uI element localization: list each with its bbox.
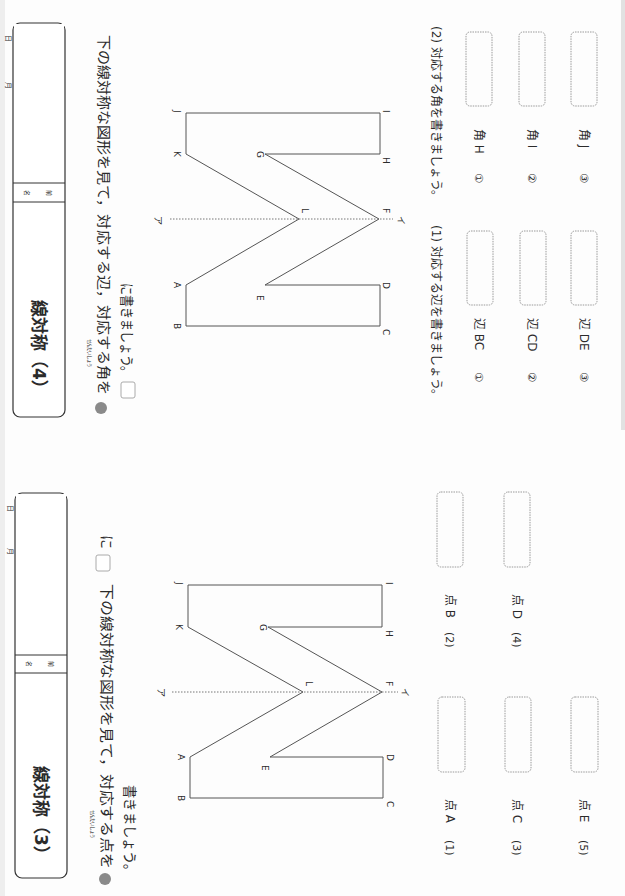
furigana: せんたいしょう xyxy=(86,339,92,367)
point-label-i: I xyxy=(384,582,394,585)
point-label-b: B xyxy=(176,795,186,801)
worksheet-title: 線対称（4） xyxy=(29,300,49,397)
worksheet-canvas: 月 日 名 前 線対称（4） せんたいしょう 下の線対称な図形を見て，対応する辺… xyxy=(0,0,625,896)
point-label-l: L xyxy=(304,681,314,686)
point-label-e: E xyxy=(255,295,265,301)
worksheet-3: 月 日 名 前 線対称（3） せんたいしょう 下の線対称な図形を見て，対応する点… xyxy=(6,492,598,885)
furigana: せんたいしょう xyxy=(89,810,95,838)
item-label: 辺 DE xyxy=(577,318,591,351)
date-month-label: 月 xyxy=(4,82,12,89)
item-number: ③ xyxy=(577,173,590,183)
question-item: (3) 点 C xyxy=(505,697,531,856)
question-item: (5) 点 E xyxy=(571,697,598,856)
point-label-d: D xyxy=(381,282,391,289)
point-label-g: G xyxy=(258,624,268,631)
item-label: 辺 BC xyxy=(472,318,486,350)
point-label-k: K xyxy=(174,624,184,631)
instruction-text: 下の線対称な図形を見て，対応する点を xyxy=(99,584,115,869)
item-number: (3) xyxy=(510,840,523,856)
answer-box[interactable] xyxy=(504,492,530,567)
point-label-h: H xyxy=(381,157,391,164)
inline-answer-box-icon xyxy=(96,555,110,571)
question-item: (4) 点 D xyxy=(504,492,530,648)
inline-answer-box-icon xyxy=(121,382,135,398)
part1-item: ① 辺 BC xyxy=(467,231,493,382)
name-label-1: 名 xyxy=(23,190,31,196)
answer-box[interactable] xyxy=(505,697,531,772)
worksheet-4: 月 日 名 前 線対称（4） せんたいしょう 下の線対称な図形を見て，対応する辺… xyxy=(4,23,597,417)
answer-box[interactable] xyxy=(437,492,463,567)
m-shape-figure: ア イ J K A B G E L F I H D C xyxy=(156,581,410,807)
name-label-2: 前 xyxy=(45,190,53,196)
item-label: 点 A xyxy=(443,799,457,824)
item-number: (5) xyxy=(577,840,590,856)
question-item: (2) 点 B xyxy=(437,492,463,648)
m-shape-figure: ア イ J K A B G E L F I H D C xyxy=(153,109,406,335)
part1-heading: (1) 対応する辺を書きましょう。 xyxy=(429,225,443,401)
point-label-b: B xyxy=(172,323,182,329)
answer-box[interactable] xyxy=(466,32,492,106)
part2-item: ① 角 H xyxy=(466,32,492,183)
axis-label-a: ア xyxy=(156,688,166,697)
point-label-f: F xyxy=(384,681,394,686)
point-label-a: A xyxy=(172,282,182,289)
answer-box[interactable] xyxy=(571,32,597,106)
point-label-j: J xyxy=(174,581,184,585)
bullet-icon xyxy=(99,873,111,885)
point-label-c: C xyxy=(385,801,395,807)
item-label: 角 J xyxy=(577,129,591,148)
answer-box[interactable] xyxy=(467,231,493,305)
worksheet-title: 線対称（3） xyxy=(31,766,51,863)
date-month-label: 月 xyxy=(6,548,14,555)
name-label-1: 名 xyxy=(25,661,33,667)
question-item: (1) 点 A xyxy=(438,697,465,856)
part2-item: ③ 角 J xyxy=(571,32,597,183)
axis-label-a: ア xyxy=(153,216,163,225)
name-field[interactable] xyxy=(14,24,64,182)
point-label-k: K xyxy=(172,151,182,158)
point-label-f: F xyxy=(381,208,391,213)
axis-label-i: イ xyxy=(396,216,406,225)
part1-item: ② 辺 CD xyxy=(520,231,546,382)
point-label-l: L xyxy=(300,208,310,213)
answer-box[interactable] xyxy=(519,32,545,106)
name-field[interactable] xyxy=(16,494,66,654)
item-number: (4) xyxy=(510,632,523,648)
point-label-g: G xyxy=(255,151,265,158)
item-label: 点 D xyxy=(510,594,524,619)
name-label-2: 前 xyxy=(47,661,55,667)
item-label: 角 I xyxy=(525,129,539,148)
item-number: ① xyxy=(472,173,485,183)
answer-box[interactable] xyxy=(571,697,598,772)
item-label: 点 C xyxy=(510,799,524,823)
item-label: 角 H xyxy=(472,129,486,154)
point-label-i: I xyxy=(381,110,391,113)
point-label-h: H xyxy=(384,630,394,637)
instruction-text-2: 書きましょう。 xyxy=(122,785,138,877)
item-number: (2) xyxy=(443,632,456,648)
part2-heading: (2) 対応する角を書きましょう。 xyxy=(429,26,443,202)
item-number: ② xyxy=(525,173,538,183)
point-label-d: D xyxy=(385,754,395,761)
item-number: ① xyxy=(472,372,485,382)
instruction-text-2: に書きましょう。 xyxy=(119,283,135,378)
item-number: ② xyxy=(525,372,538,382)
part2-item: ② 角 I xyxy=(519,32,545,183)
point-label-a: A xyxy=(176,754,186,761)
answer-box[interactable] xyxy=(571,231,597,305)
bullet-icon xyxy=(95,402,107,414)
answer-box[interactable] xyxy=(438,697,465,772)
item-label: 点 E xyxy=(577,799,591,822)
axis-label-i: イ xyxy=(400,688,410,697)
item-label: 点 B xyxy=(443,594,457,618)
point-label-e: E xyxy=(260,765,270,771)
answer-box[interactable] xyxy=(520,231,546,305)
part1-item: ③ 辺 DE xyxy=(571,231,597,382)
item-label: 辺 CD xyxy=(525,318,539,351)
item-number: ③ xyxy=(577,372,590,382)
instruction-text: 下の線対称な図形を見て，対応する辺，対応する角を xyxy=(96,35,112,395)
point-label-j: J xyxy=(172,109,182,113)
date-day-label: 日 xyxy=(6,505,14,512)
point-label-c: C xyxy=(381,329,391,335)
item-number: (1) xyxy=(443,840,456,856)
